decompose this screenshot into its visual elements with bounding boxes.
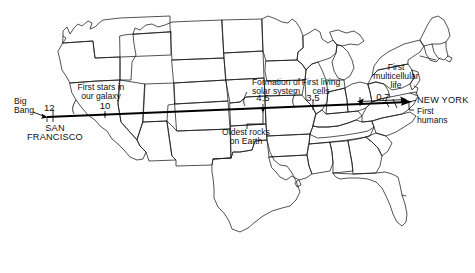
solar-system-leader — [244, 92, 247, 106]
label-first-humans-line2: humans — [417, 116, 448, 125]
label-oldest-rocks-line2: on Earth — [222, 137, 270, 146]
label-multicellular: First multicellular life — [373, 63, 418, 89]
san-francisco-line2: FRANCISCO — [27, 133, 83, 142]
value-3-5: 3.5 — [306, 93, 319, 103]
new-york-leader — [410, 100, 416, 102]
city-label-san-francisco: SAN FRANCISCO — [27, 124, 83, 143]
label-multicellular-line3: life — [373, 81, 418, 90]
value-12: 12 — [44, 103, 55, 113]
label-oldest-rocks: Oldest rocks on Earth — [222, 128, 270, 146]
first-stars-leader — [73, 100, 76, 114]
city-label-new-york: NEW YORK — [417, 96, 468, 105]
value-4-5: 4.5 — [256, 93, 269, 103]
label-big-bang-line2: Bang — [14, 106, 34, 115]
label-first-humans: First humans — [417, 107, 448, 125]
marker-10 — [104, 113, 107, 116]
label-first-stars: First stars in our galaxy — [78, 83, 125, 101]
label-big-bang: Big Bang — [14, 97, 34, 115]
value-0-7: 0.7 — [376, 92, 389, 102]
first-humans-leader — [409, 103, 414, 110]
timeline-map-figure: Big Bang 12 SAN FRANCISCO First stars in… — [0, 0, 475, 273]
value-10: 10 — [100, 101, 111, 111]
